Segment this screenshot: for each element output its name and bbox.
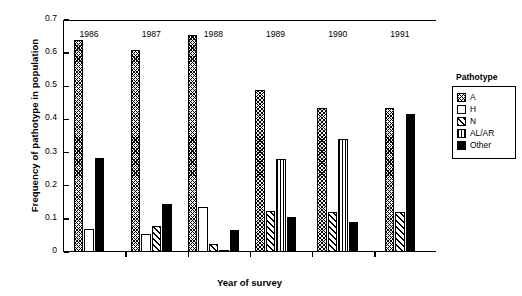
x-tick-label: 1989 [241, 29, 311, 39]
y-tick-label: 0.2 [45, 179, 57, 189]
legend-label: AL/AR [470, 129, 494, 138]
plot-area: 00.10.20.30.40.50.60.7 19861987198819891… [63, 20, 436, 252]
x-tick-mark [374, 252, 375, 257]
x-tick-label: 1991 [365, 29, 435, 39]
bar-other-1991 [406, 114, 416, 252]
legend-swatch [457, 105, 466, 114]
y-tick-label: 0.6 [45, 46, 57, 56]
legend-item-n: N [457, 117, 511, 126]
legend-swatch [457, 93, 466, 102]
x-tick-label: 1987 [116, 29, 186, 39]
x-tick-label: 1986 [54, 29, 124, 39]
x-tick-mark [312, 252, 313, 257]
bar-n-1991 [395, 212, 405, 252]
legend-item-h: H [457, 105, 511, 114]
legend-label: H [470, 105, 476, 114]
x-tick-label: 1988 [178, 29, 248, 39]
x-tick-mark [250, 252, 251, 257]
legend-title: Pathotype [452, 72, 516, 82]
y-tick-label: 0 [52, 245, 57, 255]
x-tick-label: 1990 [303, 29, 373, 39]
legend-label: A [470, 93, 476, 102]
x-tick-mark [125, 252, 126, 257]
bar-group [64, 21, 437, 252]
legend-swatch [457, 129, 466, 138]
y-tick-label: 0.5 [45, 79, 57, 89]
legend-item-other: Other [457, 141, 511, 150]
y-tick-label: 0.3 [45, 146, 57, 156]
bar-a-1991 [385, 108, 395, 252]
legend-item-al-ar: AL/AR [457, 129, 511, 138]
x-tick-mark [188, 252, 189, 257]
legend-swatch [457, 117, 466, 126]
y-tick-mark [64, 251, 69, 252]
legend-label: N [470, 117, 476, 126]
legend-item-a: A [457, 93, 511, 102]
legend-label: Other [470, 141, 491, 150]
legend-swatch [457, 141, 466, 150]
legend: AHNAL/AROther [452, 86, 516, 159]
bar-al-ar-1988 [219, 250, 229, 252]
chart-figure: Frequency of pathotype in population 00.… [0, 0, 522, 296]
y-axis-title: Frequency of pathotype in population [29, 16, 40, 236]
x-axis-title: Year of survey [63, 277, 436, 288]
y-tick-label: 0.1 [45, 212, 57, 222]
y-tick-label: 0.4 [45, 112, 57, 122]
y-tick-label: 0.7 [45, 13, 57, 23]
